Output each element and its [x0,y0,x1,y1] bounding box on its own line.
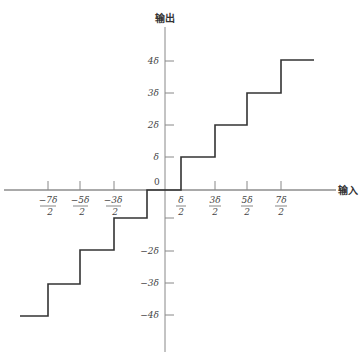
quantizer-diagram: 输出 输入 0 4δ 3δ 2δ δ −2δ −3δ −4δ −7δ 2 −5δ [0,0,363,354]
origin-label: 0 [154,177,160,187]
x-tick-num: 7δ [275,195,286,205]
x-tick-den: 2 [177,207,184,217]
x-tick-num: −5δ [71,195,90,205]
x-tick-den: 2 [78,207,85,217]
x-tick-den: 2 [211,207,218,217]
y-axis-label: 输出 [155,12,175,24]
x-tick-labels: −7δ 2 −5δ 2 −3δ 2 δ 2 3δ 2 5δ 2 7δ 2 [39,195,287,217]
y-tick-label: 3δ [148,88,159,98]
y-tick-label: −4δ [140,310,159,320]
x-tick-num: −7δ [39,195,58,205]
x-tick-den: 2 [46,207,53,217]
y-tick-label: 4δ [147,56,159,66]
y-ticks [165,61,174,315]
y-tick-label: −2δ [140,246,159,256]
x-tick-num: δ [178,195,183,205]
x-tick-den: 2 [111,207,118,217]
x-tick-num: −3δ [104,195,123,205]
x-tick-num: 3δ [209,195,220,205]
x-tick-num: 5δ [241,195,252,205]
staircase-curve [20,60,314,316]
x-tick-den: 2 [243,207,250,217]
y-tick-label: −3δ [140,278,159,288]
y-tick-label: δ [154,152,159,162]
y-tick-label: 2δ [147,120,159,130]
y-tick-labels: 4δ 3δ 2δ δ −2δ −3δ −4δ [140,56,159,320]
x-axis-label: 输入 [338,184,358,196]
x-tick-den: 2 [277,207,284,217]
